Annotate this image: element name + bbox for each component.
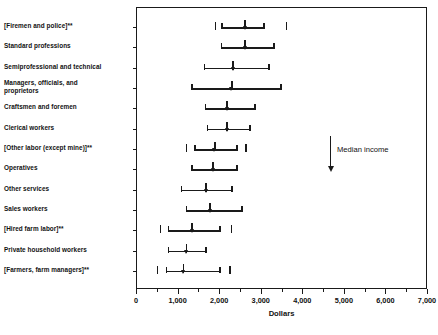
x-tick-label: 5,000 bbox=[335, 296, 353, 305]
median-marker bbox=[212, 162, 214, 171]
category-label: Craftsmen and foremen bbox=[4, 104, 132, 112]
range-line bbox=[204, 68, 268, 70]
x-tick-minor bbox=[323, 289, 324, 292]
range-line bbox=[221, 47, 274, 49]
range-cap-low bbox=[191, 165, 193, 171]
range-cap-high bbox=[263, 23, 265, 29]
range-cap-high bbox=[273, 43, 275, 49]
range-cap-high bbox=[231, 186, 233, 192]
x-tick-label: 6,000 bbox=[376, 296, 394, 305]
category-label: [Other labor (except mine)]** bbox=[4, 144, 132, 152]
median-marker bbox=[205, 183, 207, 192]
category-label: [Firemen and police]** bbox=[4, 22, 132, 30]
x-tick-major bbox=[136, 289, 137, 294]
category-label: Sales workers bbox=[4, 205, 132, 213]
range-cap-high bbox=[219, 267, 221, 273]
range-cap-high bbox=[254, 104, 256, 110]
outer-mark-high bbox=[286, 22, 287, 30]
category-label: Clerical workers bbox=[4, 124, 132, 132]
plot-area: Median income bbox=[136, 7, 427, 289]
range-bar bbox=[137, 244, 426, 258]
range-cap-low bbox=[186, 206, 188, 212]
x-tick-label: 0 bbox=[134, 296, 138, 305]
range-cap-high bbox=[236, 165, 238, 171]
range-bar bbox=[137, 162, 426, 176]
x-tick-major bbox=[344, 289, 345, 294]
outer-mark-low bbox=[186, 144, 187, 152]
x-tick-minor bbox=[240, 289, 241, 292]
category-label: Private household workers bbox=[4, 246, 132, 254]
range-line bbox=[169, 230, 221, 232]
range-bar bbox=[137, 223, 426, 237]
median-marker bbox=[214, 142, 216, 151]
outer-mark-low bbox=[215, 22, 216, 30]
outer-mark-low bbox=[157, 266, 158, 274]
median-marker bbox=[231, 81, 233, 90]
median-marker bbox=[244, 40, 246, 49]
x-tick-label: 3,000 bbox=[252, 296, 270, 305]
x-tick-major bbox=[385, 289, 386, 294]
range-cap-high bbox=[241, 206, 243, 212]
range-bar bbox=[137, 203, 426, 217]
x-axis: Dollars 01,0002,0003,0004,0005,0006,0007… bbox=[136, 289, 427, 335]
median-marker bbox=[232, 61, 234, 70]
outer-mark-high bbox=[229, 266, 230, 274]
range-cap-low bbox=[221, 43, 223, 49]
x-tick-major bbox=[261, 289, 262, 294]
outer-mark-high bbox=[231, 225, 232, 233]
median-marker bbox=[183, 264, 185, 273]
income-range-chart: [Firemen and police]**Standard professio… bbox=[0, 0, 438, 335]
x-tick-major bbox=[427, 289, 428, 294]
x-tick-minor bbox=[157, 289, 158, 292]
range-cap-low bbox=[221, 23, 223, 29]
range-cap-low bbox=[166, 267, 168, 273]
range-bar bbox=[137, 183, 426, 197]
median-marker bbox=[209, 203, 211, 212]
median-marker bbox=[226, 122, 228, 131]
range-bar bbox=[137, 101, 426, 115]
range-bar bbox=[137, 264, 426, 278]
range-cap-low bbox=[204, 64, 206, 70]
x-tick-minor bbox=[198, 289, 199, 292]
range-cap-low bbox=[205, 104, 207, 110]
range-cap-low bbox=[168, 247, 170, 253]
x-tick-minor bbox=[282, 289, 283, 292]
range-bar bbox=[137, 40, 426, 54]
category-label: Managers, officials, and proprietors bbox=[4, 79, 132, 94]
range-cap-high bbox=[249, 125, 251, 131]
range-cap-high bbox=[219, 226, 221, 232]
x-tick-major bbox=[302, 289, 303, 294]
median-marker bbox=[244, 20, 246, 29]
median-marker bbox=[226, 101, 228, 110]
range-bar bbox=[137, 81, 426, 95]
category-label: Standard professions bbox=[4, 43, 132, 51]
median-marker bbox=[191, 223, 193, 232]
x-tick-label: 2,000 bbox=[210, 296, 228, 305]
range-bar bbox=[137, 122, 426, 136]
range-line bbox=[208, 129, 250, 131]
outer-mark-high bbox=[245, 144, 246, 152]
x-tick-label: 1,000 bbox=[168, 296, 186, 305]
range-cap-high bbox=[236, 145, 238, 151]
range-cap-high bbox=[280, 84, 282, 90]
range-line bbox=[186, 210, 241, 212]
range-bar bbox=[137, 20, 426, 34]
category-label: [Hired farm labor]** bbox=[4, 225, 132, 233]
x-tick-major bbox=[219, 289, 220, 294]
range-line bbox=[206, 108, 255, 110]
range-cap-low bbox=[194, 145, 196, 151]
range-bar bbox=[137, 61, 426, 75]
range-cap-low bbox=[168, 226, 170, 232]
x-tick-minor bbox=[406, 289, 407, 292]
range-line bbox=[192, 88, 281, 90]
category-label: [Farmers, farm managers]** bbox=[4, 266, 132, 274]
range-cap-high bbox=[205, 247, 207, 253]
category-label: Semiprofessional and technical bbox=[4, 63, 132, 71]
category-label: Other services bbox=[4, 185, 132, 193]
category-label: Operatives bbox=[4, 165, 132, 173]
x-axis-title: Dollars bbox=[136, 309, 427, 318]
x-tick-label: 7,000 bbox=[418, 296, 436, 305]
range-cap-low bbox=[207, 125, 209, 131]
category-label-column: [Firemen and police]**Standard professio… bbox=[0, 0, 132, 290]
range-cap-low bbox=[191, 84, 193, 90]
